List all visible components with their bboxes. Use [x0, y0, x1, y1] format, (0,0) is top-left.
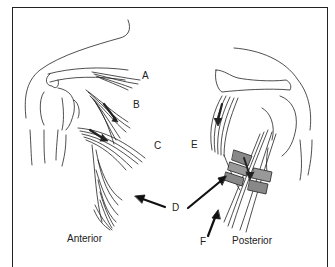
label-b: B	[133, 100, 140, 110]
label-c: C	[154, 141, 161, 151]
label-e: E	[191, 140, 198, 150]
arrow-d-right	[188, 180, 222, 208]
label-d: D	[172, 203, 179, 213]
caption-posterior: Posterior	[232, 236, 272, 246]
label-f: F	[200, 237, 206, 247]
caption-anterior: Anterior	[67, 234, 102, 244]
posterior-view	[211, 48, 312, 232]
anterior-view	[25, 20, 145, 230]
label-a: A	[142, 71, 149, 81]
pointer-arrows	[135, 176, 226, 236]
